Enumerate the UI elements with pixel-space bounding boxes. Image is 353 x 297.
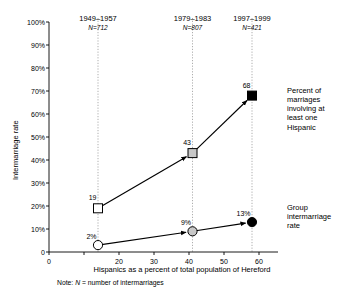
period-label: 1949–1957 bbox=[79, 14, 117, 23]
y-tick-label-5: 50% bbox=[11, 134, 45, 141]
period-n-label: N=421 bbox=[242, 24, 261, 31]
x-tick-label-4: 40 bbox=[175, 258, 203, 265]
y-tick-label-9: 90% bbox=[11, 42, 45, 49]
chart-axes bbox=[46, 22, 278, 255]
period-label: 1979–1983 bbox=[174, 14, 212, 23]
legend-leader-lines bbox=[257, 96, 284, 223]
data-point-label-s1-2: 43 bbox=[165, 139, 191, 146]
chart-plot-area bbox=[0, 0, 353, 297]
data-point-label-s2-2: 9% bbox=[165, 219, 191, 226]
x-tick-label-2: 20 bbox=[105, 258, 133, 265]
legend-label-marriages-with-hispanic: Percent of marriages involving at least … bbox=[287, 86, 351, 132]
y-tick-label-6: 60% bbox=[11, 111, 45, 118]
chart-figure: Intermarriage rate Hispanics as a percen… bbox=[0, 0, 353, 297]
y-axis-title: Intermarriage rate bbox=[12, 120, 20, 180]
period-label: 1997–1999 bbox=[233, 14, 271, 23]
y-tick-label-3: 30% bbox=[11, 180, 45, 187]
y-tick-label-0: 0 bbox=[11, 249, 45, 256]
x-tick-label-6: 60 bbox=[245, 258, 273, 265]
y-tick-label-1: 10% bbox=[11, 226, 45, 233]
x-tick-label-0: 0 bbox=[35, 258, 63, 265]
period-n-label: N=807 bbox=[183, 24, 202, 31]
period-header-3: 1997–1999N=421 bbox=[207, 14, 297, 33]
y-tick-label-7: 70% bbox=[11, 88, 45, 95]
data-point-label-s1-3: 68 bbox=[225, 82, 251, 89]
x-axis-title: Hispanics as a percent of total populati… bbox=[62, 266, 302, 274]
y-tick-label-2: 20% bbox=[11, 203, 45, 210]
period-header-1: 1949–1957N=712 bbox=[53, 14, 143, 33]
period-n-label: N=712 bbox=[88, 24, 107, 31]
data-point-label-s2-3: 13% bbox=[225, 210, 251, 217]
data-point-label-s2-1: 2% bbox=[71, 233, 97, 240]
y-tick-label-4: 40% bbox=[11, 157, 45, 164]
legend-label-group-intermarriage-rate: Group intermarriage rate bbox=[287, 203, 351, 230]
chart-note: Note: N = number of intermarriages bbox=[57, 280, 164, 287]
y-tick-label-8: 80% bbox=[11, 65, 45, 72]
note-rest: = number of intermarriages bbox=[82, 279, 164, 286]
y-tick-label-10: 100% bbox=[11, 19, 45, 26]
x-tick-label-5: 50 bbox=[210, 258, 238, 265]
data-point-label-s1-1: 19 bbox=[71, 194, 97, 201]
x-tick-label-3: 30 bbox=[140, 258, 168, 265]
note-prefix: Note: bbox=[57, 279, 73, 286]
note-italic-symbol: N bbox=[75, 279, 80, 286]
